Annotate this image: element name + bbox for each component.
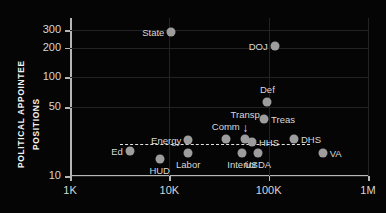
x-tick-label: 100K xyxy=(256,184,282,196)
plot-area: 30020010050101K10K100K1M StateDOJDefTrea… xyxy=(70,18,368,176)
y-axis-spine xyxy=(70,18,72,176)
x-tick-mark xyxy=(368,176,370,181)
data-point-label-state: State xyxy=(142,26,164,37)
y-axis-title-line-1: POLITICAL APPOINTEE xyxy=(16,60,26,168)
y-tick-mark xyxy=(65,30,70,32)
x-tick-label: 1M xyxy=(360,184,375,196)
gridline-horizontal xyxy=(70,77,368,78)
data-point-label-usda: USDA xyxy=(245,159,271,170)
data-point-label-labor: Labor xyxy=(176,159,200,170)
data-point-labor[interactable] xyxy=(184,149,193,158)
data-point-label-treas: Treas xyxy=(271,113,295,124)
y-axis-title: POLITICAL APPOINTEE POSITIONS xyxy=(0,0,44,213)
median-reference-line xyxy=(120,144,310,145)
data-point-energy[interactable] xyxy=(184,136,193,145)
data-point-label-doj: DOJ xyxy=(249,40,268,51)
y-tick-mark xyxy=(65,48,70,50)
x-tick-mark xyxy=(70,176,72,181)
y-axis-title-line-2: POSITIONS xyxy=(31,98,41,150)
y-tick-mark xyxy=(65,107,70,109)
political-appointee-scatter-figure: POLITICAL APPOINTEE POSITIONS 3002001005… xyxy=(0,0,386,213)
y-tick-label: 10 xyxy=(49,169,61,181)
data-point-label-transp: Transp xyxy=(231,109,260,120)
data-point-label-comm: Comm xyxy=(212,121,240,132)
x-tick-label: 10K xyxy=(160,184,180,196)
data-point-treas[interactable] xyxy=(260,114,269,123)
data-point-doj[interactable] xyxy=(270,41,279,50)
gridline-horizontal xyxy=(70,30,368,31)
data-point-hud[interactable] xyxy=(155,154,164,163)
y-tick-label: 300 xyxy=(43,23,61,35)
y-tick-mark xyxy=(65,77,70,79)
data-point-usda[interactable] xyxy=(253,149,262,158)
data-point-label-energy: Energy xyxy=(151,135,181,146)
data-point-dhs[interactable] xyxy=(290,134,299,143)
x-tick-label: 1K xyxy=(63,184,76,196)
data-point-label-dhs: DHS xyxy=(301,133,321,144)
x-tick-mark xyxy=(169,176,171,181)
data-point-ed[interactable] xyxy=(125,146,134,155)
gridline-vertical xyxy=(169,18,170,176)
data-point-def[interactable] xyxy=(263,97,272,106)
y-tick-label: 100 xyxy=(43,70,61,82)
x-tick-mark xyxy=(269,176,271,181)
gridline-horizontal xyxy=(70,48,368,49)
data-point-label-ed: Ed xyxy=(111,145,123,156)
data-point-label-hhs: HHS xyxy=(259,137,279,148)
data-point-comm[interactable] xyxy=(221,134,230,143)
data-point-label-va: VA xyxy=(330,148,342,159)
data-point-state[interactable] xyxy=(167,27,176,36)
gridline-vertical xyxy=(368,18,369,176)
y-tick-label: 200 xyxy=(43,41,61,53)
y-tick-label: 50 xyxy=(49,100,61,112)
data-point-label-def: Def xyxy=(260,84,275,95)
data-point-interior[interactable] xyxy=(238,149,247,158)
data-point-hhs[interactable] xyxy=(248,138,257,147)
data-point-va[interactable] xyxy=(318,149,327,158)
data-point-label-hud: HUD xyxy=(149,165,170,176)
gridline-horizontal xyxy=(70,107,368,108)
gridline-horizontal xyxy=(70,176,368,177)
transp-arrow-icon: ↓ xyxy=(242,122,248,134)
